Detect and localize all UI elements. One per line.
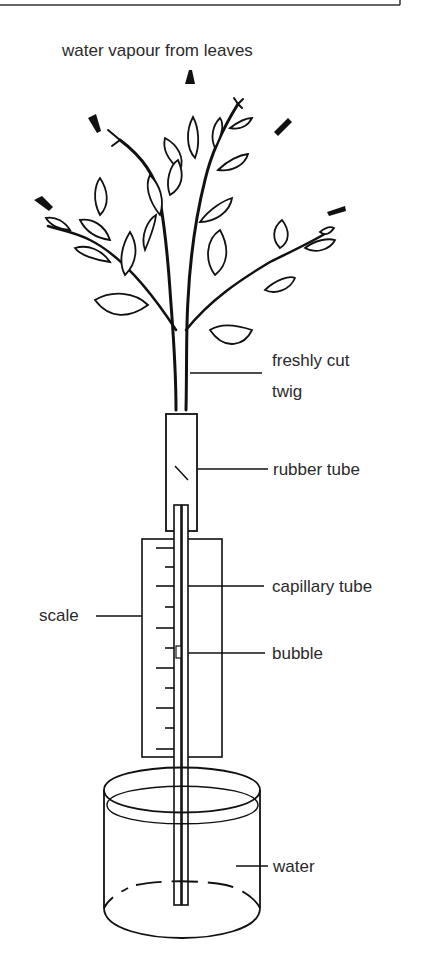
potometer-diagram: water vapour from leaves freshly cut twi…	[0, 0, 422, 970]
title-label: water vapour from leaves	[62, 42, 253, 59]
scale-label: scale	[39, 607, 79, 624]
rubber-tube-label: rubber tube	[273, 461, 360, 478]
diagram-drawing	[0, 0, 422, 970]
twig-label-line2: twig	[272, 383, 302, 400]
water-label: water	[273, 858, 315, 875]
capillary-tube	[174, 505, 188, 905]
leaves	[46, 117, 335, 344]
top-frame	[0, 0, 400, 5]
capillary-tube-label: capillary tube	[272, 578, 372, 595]
twig-label-line1: freshly cut	[272, 352, 349, 369]
bubble-label: bubble	[272, 645, 323, 662]
bubble	[176, 646, 181, 658]
